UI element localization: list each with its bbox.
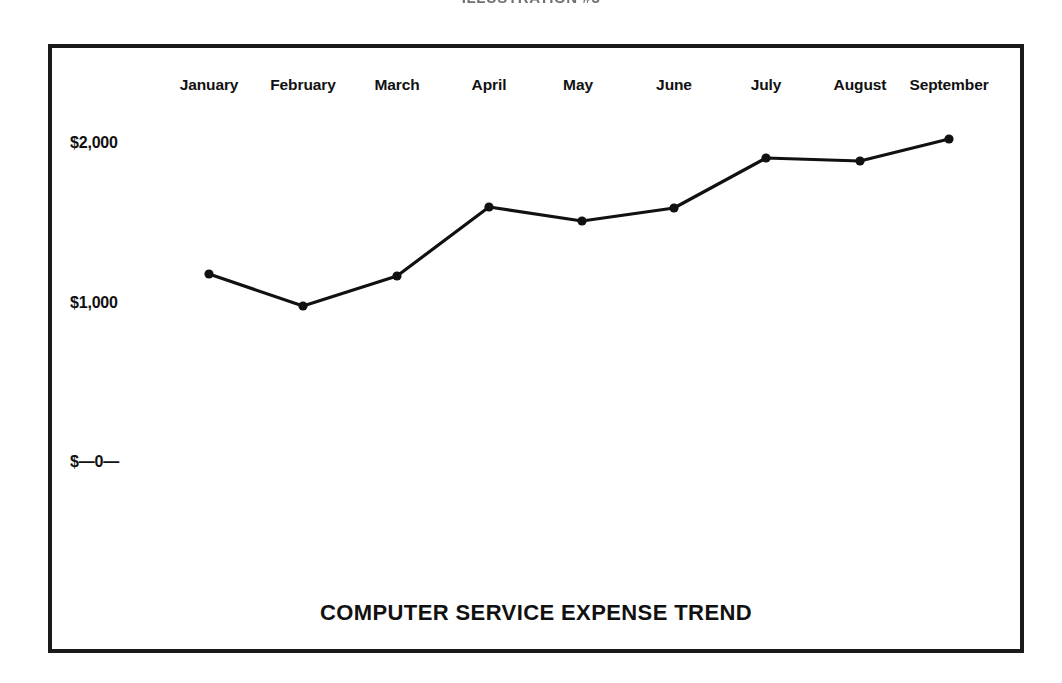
figure-frame (48, 44, 1024, 653)
scan-top-caption: ILLUSTRATION #3 (0, 0, 1062, 7)
